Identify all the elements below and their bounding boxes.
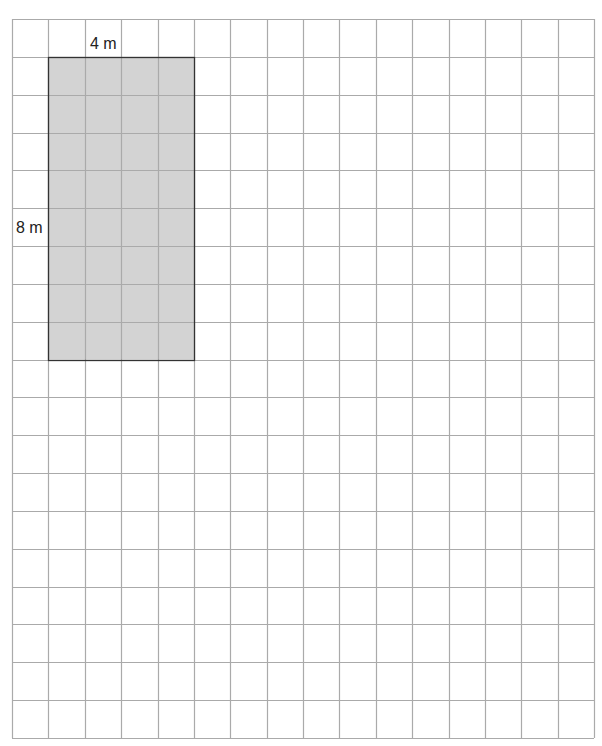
grid-diagram: [0, 0, 602, 746]
height-label: 8 m: [15, 219, 44, 237]
width-label: 4 m: [90, 35, 117, 53]
